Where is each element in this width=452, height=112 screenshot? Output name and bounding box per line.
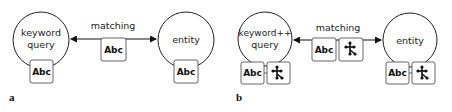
panel-label: a: [9, 91, 15, 103]
graph-feature-box: [339, 38, 363, 61]
edge-label: matching: [91, 20, 136, 31]
text-feature-label: Abc: [104, 45, 123, 55]
node-label: query: [251, 39, 279, 50]
diagram-canvas: keyword query Abc entity Abc matching Ab…: [0, 0, 452, 112]
text-feature-label: Abc: [32, 67, 51, 77]
panel-label: b: [236, 91, 242, 103]
node-label: entity: [172, 34, 200, 45]
text-feature-label: Abc: [315, 45, 334, 55]
node-label: entity: [396, 35, 424, 46]
diagram: keyword query Abc entity Abc matching Ab…: [0, 0, 452, 112]
node-label: query: [27, 39, 55, 50]
panel-b: keyword++ query Abc entity Abc matching …: [236, 12, 437, 103]
node-label: keyword++: [239, 28, 292, 38]
text-feature-label: Abc: [388, 68, 407, 78]
node-label: keyword: [21, 27, 61, 38]
graph-feature-box: [267, 62, 290, 84]
edge-label: matching: [316, 22, 361, 33]
text-feature-label: Abc: [177, 67, 196, 77]
text-feature-label: Abc: [243, 68, 262, 78]
panel-a: keyword query Abc entity Abc matching Ab…: [9, 12, 214, 103]
graph-feature-box: [412, 62, 435, 84]
